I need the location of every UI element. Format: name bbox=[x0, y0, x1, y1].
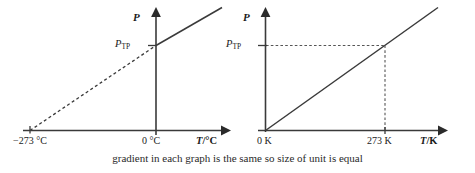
kelvin-y-axis-label: P bbox=[243, 12, 250, 23]
physics-figure-pressure-temperature: P PTP −273 °C 0 °C T/°C P PTP 0 K 273 K … bbox=[0, 0, 475, 173]
celsius-extrapolated-line bbox=[30, 46, 156, 131]
celsius-x-axis-arrowhead bbox=[221, 126, 231, 136]
celsius-x-axis-label: T/°C bbox=[196, 136, 217, 147]
kelvin-ptp-label: PTP bbox=[226, 39, 241, 50]
kelvin-xtick-label-273: 273 K bbox=[367, 136, 392, 146]
celsius-ptp-subscript: TP bbox=[121, 42, 130, 51]
kelvin-ptp-subscript: TP bbox=[232, 42, 241, 51]
kelvin-x-axis-arrowhead bbox=[438, 126, 448, 136]
celsius-graph-group bbox=[23, 7, 231, 135]
celsius-xtick-label-minus273: −273 °C bbox=[13, 136, 47, 146]
celsius-xtick-label-zero: 0 °C bbox=[142, 136, 160, 146]
kelvin-x-axis-unit: K bbox=[429, 135, 437, 146]
celsius-ptp-label: PTP bbox=[115, 39, 130, 50]
celsius-x-axis-unit: °C bbox=[205, 135, 217, 146]
figure-caption: gradient in each graph is the same so si… bbox=[0, 152, 475, 164]
kelvin-graph-group bbox=[258, 7, 448, 135]
graphs-vector-layer bbox=[0, 0, 475, 173]
kelvin-xtick-label-zero: 0 K bbox=[257, 136, 272, 146]
celsius-measured-line bbox=[156, 8, 222, 46]
celsius-y-axis-arrowhead bbox=[151, 7, 161, 17]
kelvin-x-axis-label: T/K bbox=[420, 136, 438, 147]
celsius-y-axis-label: P bbox=[133, 12, 140, 23]
kelvin-pressure-line bbox=[266, 8, 439, 131]
kelvin-y-axis-arrowhead bbox=[261, 7, 271, 17]
